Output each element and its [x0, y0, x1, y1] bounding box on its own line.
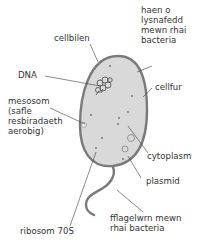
label-cellfur: cellfur	[155, 82, 182, 92]
label-dna: DNA	[18, 70, 37, 80]
label-mesosom: mesosom (safle resbiradaeth aerobig)	[8, 96, 63, 136]
label-cellbilen: cellbilen	[54, 33, 90, 43]
label-cytoplasm: cytoplasm	[147, 151, 191, 161]
label-slime-layer: haen o lysnafedd mewn rhai bacteria	[141, 5, 186, 45]
label-flagellum: fflagelwrn mewn rhai bacteria	[110, 213, 181, 233]
label-plasmid: plasmid	[146, 176, 180, 186]
label-ribosom: ribosom 70S	[20, 226, 74, 236]
cell-wall	[80, 56, 147, 166]
flagellum	[86, 167, 114, 215]
